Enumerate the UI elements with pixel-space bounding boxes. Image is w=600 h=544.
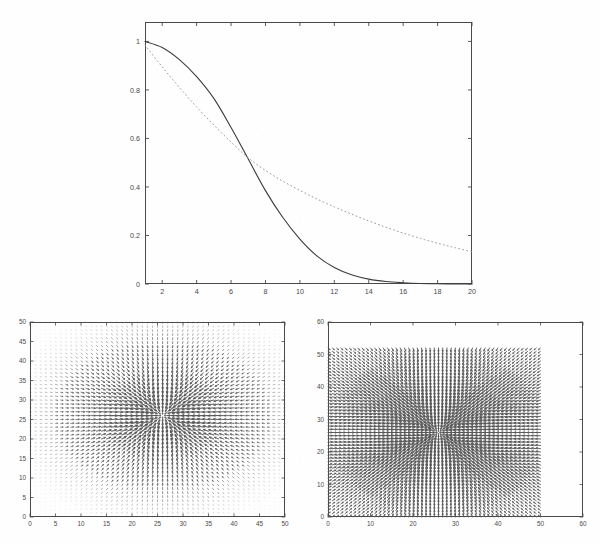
field-arrow-shaft [96, 334, 97, 335]
field-arrow-head [162, 417, 163, 418]
field-arrow-shaft [96, 477, 98, 478]
field-dot [274, 326, 275, 327]
field-arrow-head [162, 363, 163, 364]
field-dot [35, 322, 36, 323]
field-dot [229, 517, 230, 518]
field-dot [264, 501, 265, 502]
field-arrow-head [438, 387, 439, 388]
field-arrow-head [152, 351, 153, 352]
field-arrow-head [262, 415, 263, 416]
field-arrow-head [122, 476, 123, 477]
field-arrow-shaft [86, 477, 87, 478]
field-arrow-shaft [81, 493, 82, 494]
field-arrow-shaft [71, 469, 73, 470]
field-arrow-head [62, 427, 63, 428]
field-arrow-shaft [122, 496, 123, 497]
field-arrow-head [442, 350, 443, 351]
field-arrow-shaft [56, 373, 58, 374]
field-arrow-shaft [56, 474, 57, 475]
field-arrow-shaft [76, 334, 77, 335]
field-arrow-head [450, 350, 451, 351]
field-arrow-head [142, 351, 143, 352]
field-arrow-head [197, 472, 198, 473]
field-arrow-shaft [258, 357, 259, 358]
field-arrow-shaft [258, 454, 260, 455]
field-arrow-head [147, 475, 148, 476]
field-arrow-shaft [112, 492, 113, 493]
field-arrow-shaft [101, 334, 102, 335]
field-arrow-shaft [81, 338, 82, 339]
field-arrow-head [237, 369, 238, 370]
field-arrow-head [87, 465, 88, 466]
field-arrow-shaft [208, 342, 209, 344]
field-dot [35, 482, 36, 483]
field-arrow-shaft [117, 342, 118, 344]
field-arrow-head [57, 415, 58, 416]
field-arrow-shaft [232, 357, 234, 358]
field-arrow-shaft [264, 477, 265, 478]
field-arrow-shaft [132, 330, 133, 331]
field-dot [65, 322, 66, 323]
field-arrow-head [128, 359, 129, 360]
field-dot [249, 509, 250, 510]
tick-label: 4 [195, 287, 199, 296]
field-dot [249, 517, 250, 518]
field-arrow-head [267, 404, 268, 405]
field-arrow-shaft [228, 334, 229, 335]
field-arrow-shaft [238, 357, 240, 358]
decay-curves-plot: 246810121416182000.20.40.60.81 [145, 22, 472, 284]
field-arrow-shaft [254, 493, 255, 494]
field-arrow-shaft [218, 492, 219, 493]
field-dot [274, 493, 275, 494]
field-arrow-shaft [91, 477, 92, 478]
field-dot [35, 517, 36, 518]
field-arrow-shaft [243, 493, 244, 494]
field-arrow-head [157, 355, 158, 356]
field-arrow-shaft [132, 342, 133, 344]
tick-label: 50 [19, 318, 27, 325]
field-arrow-head [426, 357, 427, 358]
field-arrow-head [177, 355, 178, 356]
field-arrow-shaft [253, 361, 255, 362]
tick-label: 50 [317, 351, 325, 358]
field-arrow-head [430, 370, 431, 371]
field-dot [274, 501, 275, 502]
field-arrow-head [393, 507, 394, 508]
field-arrow-shaft [193, 334, 194, 336]
field-arrow-shaft [213, 496, 214, 497]
field-arrow-shaft [243, 357, 245, 358]
field-arrow-head [167, 355, 168, 356]
field-arrow-shaft [254, 338, 255, 339]
field-arrow-shaft [71, 334, 72, 335]
field-dot [280, 505, 281, 506]
field-arrow-shaft [50, 369, 51, 370]
field-arrow-shaft [127, 496, 128, 497]
field-arrow-head [197, 476, 198, 477]
field-dot [30, 517, 31, 518]
tick-label: 40 [494, 520, 502, 527]
field-arrow-shaft [248, 365, 250, 366]
field-dot [35, 501, 36, 502]
field-arrow-head [157, 467, 158, 468]
field-arrow-shaft [81, 501, 82, 502]
field-arrow-head [442, 354, 443, 355]
field-arrow-shaft [273, 458, 274, 459]
field-arrow-head [446, 357, 447, 358]
field-arrow-shaft [61, 481, 62, 482]
field-dot [45, 333, 46, 334]
field-arrow-shaft [76, 338, 77, 339]
field-dot [70, 513, 71, 514]
field-arrow-head [434, 380, 435, 381]
field-arrow-head [483, 507, 484, 508]
field-arrow-shaft [239, 326, 240, 327]
field-arrow-shaft [50, 466, 51, 467]
field-arrow-shaft [243, 485, 244, 486]
field-arrow-shaft [91, 509, 92, 510]
field-dot [274, 333, 275, 334]
field-arrow-shaft [112, 504, 113, 505]
vector-field [30, 322, 286, 518]
field-arrow-shaft [243, 342, 244, 343]
field-arrow-head [442, 380, 443, 381]
field-arrow-shaft [208, 334, 209, 335]
field-dot [35, 509, 36, 510]
